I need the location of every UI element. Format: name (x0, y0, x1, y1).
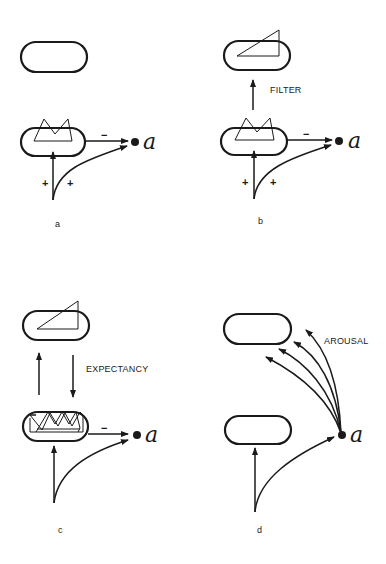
panel-a: − a + + a (21, 42, 156, 229)
panel-a-lower-ellipse (21, 128, 85, 156)
panel-b-template-triangle (237, 30, 279, 56)
panel-a-upper-ellipse (21, 42, 87, 72)
panel-c-label: c (58, 525, 63, 535)
diagram-figure: − a + + a FILTER − a + + b EXPECTANCY (0, 0, 386, 564)
panel-b: FILTER − a + + b (221, 30, 361, 226)
panel-c-node (133, 431, 141, 439)
panel-b-node-label: a (348, 128, 361, 153)
panel-a-plus-left: + (42, 177, 48, 189)
panel-b-label: b (258, 216, 263, 226)
panel-d-excite-arrow (255, 437, 334, 512)
panel-b-minus-sign: − (303, 128, 309, 140)
panel-d-lower-ellipse (225, 416, 291, 444)
panel-a-sawtooth-pattern (34, 119, 72, 141)
panel-c-expectancy-label: EXPECTANCY (86, 364, 148, 374)
panel-d-label: d (257, 525, 262, 535)
panel-c: EXPECTANCY − a c (23, 301, 158, 535)
panel-c-excite-arrow (54, 440, 128, 503)
panel-c-lower-ellipse (23, 412, 88, 441)
panel-d-arousal-label: AROUSAL (324, 336, 368, 346)
panel-d-arousal-arrow-2 (294, 342, 341, 433)
panel-d-upper-ellipse (224, 314, 291, 344)
panel-a-node (131, 138, 139, 146)
panel-b-plus-right: + (270, 176, 276, 188)
panel-c-node-label: a (145, 422, 158, 447)
panel-a-label: a (55, 219, 60, 229)
panel-a-minus-sign: − (101, 129, 107, 141)
panel-b-node (335, 137, 343, 145)
panel-b-lower-ellipse (221, 128, 287, 155)
panel-d: AROUSAL a d (224, 314, 368, 535)
panel-d-node-label: a (350, 422, 363, 447)
panel-b-plus-left: + (242, 176, 248, 188)
panel-d-node (338, 431, 346, 439)
panel-a-node-label: a (143, 129, 156, 154)
panel-b-filter-label: FILTER (270, 85, 302, 95)
panel-b-excite-arrow (254, 145, 331, 199)
panel-a-excite-arrow (53, 146, 127, 200)
panel-c-minus-sign: − (101, 422, 107, 434)
panel-a-plus-right: + (67, 177, 73, 189)
panel-c-template-triangle (37, 301, 78, 329)
panel-c-upper-ellipse (23, 311, 89, 340)
